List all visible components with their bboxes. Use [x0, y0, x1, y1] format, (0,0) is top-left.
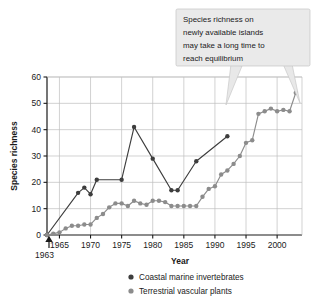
data-point — [95, 216, 99, 220]
data-point — [101, 212, 105, 216]
data-point — [194, 204, 198, 208]
data-point — [182, 204, 186, 208]
data-point — [238, 154, 242, 158]
chart-figure: 0102030405060196519701975198019851990199… — [0, 0, 324, 302]
data-point — [144, 203, 148, 207]
x-tick-label-1980: 1980 — [143, 240, 162, 250]
callout-line-3: may take a long time to — [183, 41, 265, 50]
data-point — [163, 200, 167, 204]
data-point — [82, 222, 86, 226]
callout-line-4: reach equilibrium — [183, 54, 244, 63]
data-point — [200, 195, 204, 199]
x-tick-label-1985: 1985 — [174, 240, 193, 250]
data-point — [231, 162, 235, 166]
data-point — [281, 108, 285, 112]
chart-legend: Coastal marine invertebrates Terrestrial… — [128, 273, 243, 296]
data-point — [194, 159, 198, 163]
x-tick-label-2000: 2000 — [268, 240, 287, 250]
data-point — [262, 109, 266, 113]
data-point — [95, 178, 99, 182]
data-point — [157, 199, 161, 203]
data-point — [269, 106, 273, 110]
data-point — [250, 138, 254, 142]
data-point — [126, 204, 130, 208]
data-point — [138, 201, 142, 205]
data-point — [63, 226, 67, 230]
data-point — [132, 125, 136, 129]
legend-label-coastal-marine-invertebrates: Coastal marine invertebrates — [139, 273, 244, 282]
legend-marker-coastal-marine-invertebrates — [128, 274, 133, 279]
data-point — [119, 201, 123, 205]
legend-label-terrestrial-vascular-plants: Terrestrial vascular plants — [139, 287, 232, 296]
data-point — [107, 205, 111, 209]
y-tick-label-30: 30 — [32, 151, 42, 161]
y-tick-label-10: 10 — [32, 204, 42, 214]
data-point — [213, 184, 217, 188]
data-point — [151, 156, 155, 160]
y-tick-label-20: 20 — [32, 177, 42, 187]
data-point — [51, 231, 55, 235]
data-point — [45, 233, 49, 237]
data-point — [113, 201, 117, 205]
y-axis-title: Species richness — [9, 121, 19, 191]
origin-year-label: 1963 — [35, 250, 54, 260]
y-tick-label-40: 40 — [32, 125, 42, 135]
x-tick-label-1990: 1990 — [205, 240, 224, 250]
data-point — [76, 191, 80, 195]
legend-marker-terrestrial-vascular-plants — [128, 288, 133, 293]
data-point — [169, 188, 173, 192]
y-tick-label-50: 50 — [32, 98, 42, 108]
data-point — [175, 204, 179, 208]
data-point — [82, 185, 86, 189]
x-tick-label-1970: 1970 — [81, 240, 100, 250]
data-point — [88, 192, 92, 196]
data-point — [287, 109, 291, 113]
species-richness-chart: 0102030405060196519701975198019851990199… — [0, 0, 324, 302]
data-point — [169, 204, 173, 208]
callout-line-2: newly available islands — [183, 28, 263, 37]
data-point — [132, 199, 136, 203]
x-tick-label-1965: 1965 — [50, 240, 69, 250]
data-point — [70, 224, 74, 228]
data-point — [275, 109, 279, 113]
data-point — [88, 222, 92, 226]
callout-line-1: Species richness on — [183, 15, 254, 24]
data-point — [151, 199, 155, 203]
data-point — [175, 188, 179, 192]
data-point — [76, 224, 80, 228]
y-tick-label-0: 0 — [36, 230, 41, 240]
data-point — [207, 187, 211, 191]
data-point — [188, 204, 192, 208]
data-point — [256, 112, 260, 116]
y-tick-label-60: 60 — [32, 72, 42, 82]
data-point — [244, 141, 248, 145]
x-axis-title: Year — [171, 256, 190, 266]
x-tick-label-1995: 1995 — [237, 240, 256, 250]
data-point — [225, 134, 229, 138]
data-point — [57, 230, 61, 234]
data-point — [219, 172, 223, 176]
x-tick-label-1975: 1975 — [112, 240, 131, 250]
data-point — [119, 178, 123, 182]
data-point — [225, 168, 229, 172]
